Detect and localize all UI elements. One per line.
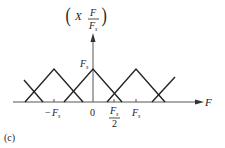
svg-text:): ) bbox=[102, 4, 107, 27]
svg-text:(: ( bbox=[66, 4, 71, 27]
svg-text:−: − bbox=[45, 107, 51, 118]
aliasing-spectrum-diagram: X ( F F s ) F s F − F s 0 F s 2 F s (c) bbox=[0, 0, 225, 148]
svg-text:X: X bbox=[74, 10, 83, 22]
triangle-neg-fs bbox=[25, 69, 83, 102]
svg-text:s: s bbox=[58, 113, 61, 119]
y-axis-label: X ( F F s ) bbox=[66, 4, 107, 32]
panel-label: (c) bbox=[4, 132, 15, 144]
svg-text:2: 2 bbox=[112, 118, 117, 129]
svg-text:s: s bbox=[116, 111, 119, 117]
x-axis-label: F bbox=[204, 96, 212, 108]
svg-text:s: s bbox=[95, 26, 98, 32]
y-axis-arrow-icon bbox=[91, 33, 96, 42]
svg-text:s: s bbox=[138, 113, 141, 119]
svg-text:s: s bbox=[86, 64, 89, 70]
peak-label: F s bbox=[79, 58, 89, 70]
tick-label-neg-fs: − F s bbox=[45, 107, 61, 119]
svg-text:F: F bbox=[89, 7, 97, 18]
partial-triangle-left bbox=[24, 80, 43, 102]
tick-label-zero: 0 bbox=[90, 107, 95, 118]
x-axis-arrow-icon bbox=[195, 100, 204, 105]
partial-triangle-right bbox=[152, 77, 175, 102]
tick-label-half-fs: F s 2 bbox=[109, 105, 120, 129]
tick-label-fs: F s bbox=[131, 107, 141, 119]
